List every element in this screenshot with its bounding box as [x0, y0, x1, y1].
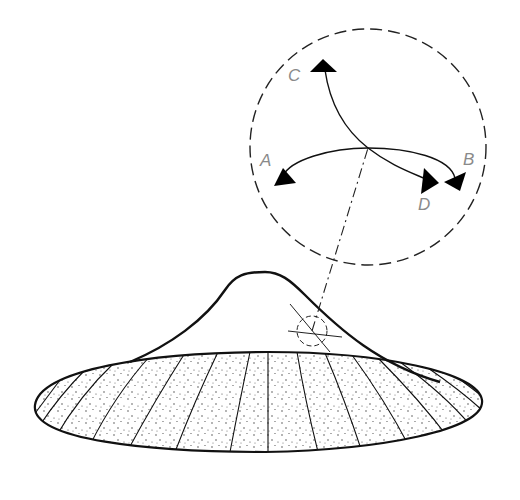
slope-marker — [288, 304, 342, 352]
label-b: B — [463, 150, 474, 169]
arc-c-d — [325, 70, 428, 180]
diagram-canvas: A B C D — [0, 0, 520, 500]
arrow-a-icon — [274, 168, 296, 186]
arrow-b-icon — [444, 172, 466, 191]
inset-circle — [250, 29, 486, 265]
arrow-d-icon — [421, 168, 439, 194]
axis-line — [312, 148, 368, 331]
volcano-rotation-diagram: A B C D — [0, 0, 520, 500]
label-a: A — [259, 151, 271, 170]
arrow-c-icon — [310, 59, 337, 72]
label-d: D — [418, 195, 430, 214]
cone-base — [35, 352, 484, 452]
label-c: C — [288, 66, 301, 85]
